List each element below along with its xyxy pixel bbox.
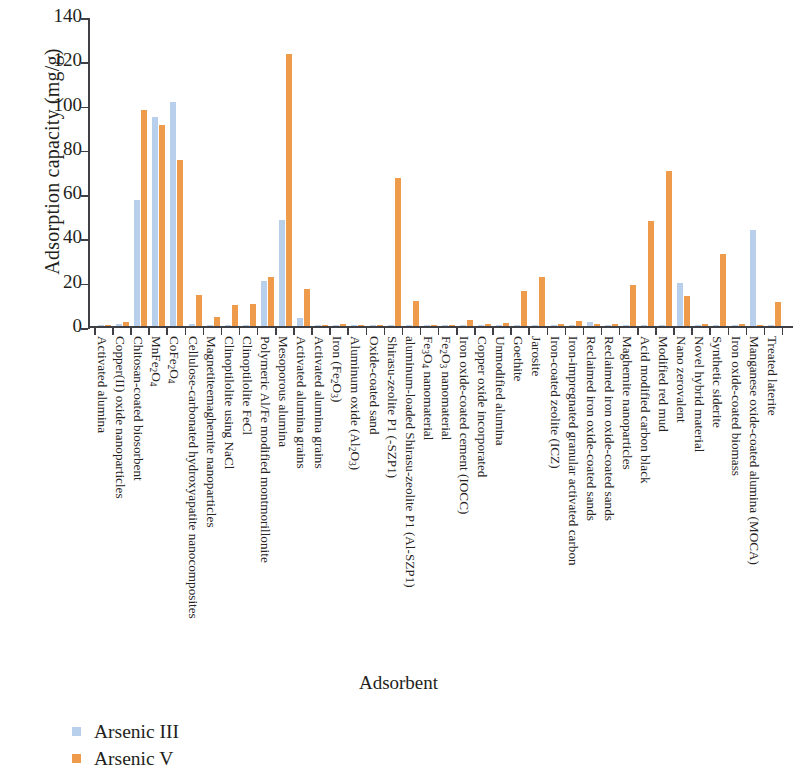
bar-arsenic-v[interactable] xyxy=(539,277,545,326)
bar-arsenic-iii[interactable] xyxy=(207,325,213,326)
bar-arsenic-v[interactable] xyxy=(775,302,781,326)
bar-arsenic-v[interactable] xyxy=(304,289,310,326)
x-tick-mark xyxy=(384,328,386,335)
legend-item[interactable]: Arsenic V xyxy=(72,745,179,772)
bar-arsenic-v[interactable] xyxy=(739,324,745,326)
bar-arsenic-v[interactable] xyxy=(503,323,509,326)
bar-arsenic-iii[interactable] xyxy=(460,325,466,326)
bar-arsenic-iii[interactable] xyxy=(695,325,701,326)
bar-arsenic-iii[interactable] xyxy=(750,230,756,326)
bar-arsenic-iii[interactable] xyxy=(768,325,774,326)
bar-arsenic-iii[interactable] xyxy=(98,325,104,326)
bar-arsenic-iii[interactable] xyxy=(388,325,394,326)
bar-arsenic-iii[interactable] xyxy=(315,325,321,326)
x-tick-label: Acid modified carbon black xyxy=(639,336,652,484)
bar-arsenic-iii[interactable] xyxy=(478,325,484,326)
bar-arsenic-v[interactable] xyxy=(340,324,346,326)
bar-arsenic-v[interactable] xyxy=(395,178,401,326)
bar-arsenic-v[interactable] xyxy=(431,325,437,326)
x-tick-label: Polymeric Al/Fe modified montmorillonite xyxy=(259,336,272,563)
x-tick-label: Iron oxide-coated cement (IOCC) xyxy=(458,336,471,514)
x-tick-label: Clinoptilolite FeCl xyxy=(241,336,254,435)
bar-arsenic-iii[interactable] xyxy=(351,325,357,326)
y-tick-label: 140 xyxy=(54,5,83,27)
bar-arsenic-iii[interactable] xyxy=(442,325,448,326)
y-tick-mark xyxy=(81,239,88,241)
bar-arsenic-v[interactable] xyxy=(286,54,292,326)
x-tick-label: Aluminum oxide (Al2O3) xyxy=(347,336,363,470)
legend-item[interactable]: Arsenic III xyxy=(72,718,179,745)
bar-arsenic-v[interactable] xyxy=(485,324,491,326)
bar-arsenic-v[interactable] xyxy=(358,325,364,326)
bar-arsenic-iii[interactable] xyxy=(297,318,303,326)
bar-arsenic-v[interactable] xyxy=(648,221,654,326)
x-tick-mark xyxy=(492,328,494,335)
bar-arsenic-v[interactable] xyxy=(196,295,202,326)
bar-arsenic-iii[interactable] xyxy=(659,325,665,326)
y-tick-mark xyxy=(81,195,88,197)
legend-swatch-icon xyxy=(72,727,81,736)
bar-arsenic-iii[interactable] xyxy=(713,325,719,326)
bar-arsenic-v[interactable] xyxy=(177,160,183,326)
x-tick-mark xyxy=(166,328,168,335)
bar-arsenic-iii[interactable] xyxy=(243,325,249,326)
x-tick-mark xyxy=(275,328,277,335)
x-tick-mark xyxy=(347,328,349,335)
bar-arsenic-iii[interactable] xyxy=(225,325,231,326)
x-tick-mark xyxy=(438,328,440,335)
bar-arsenic-v[interactable] xyxy=(214,317,220,326)
bar-arsenic-iii[interactable] xyxy=(587,322,593,326)
x-tick-mark xyxy=(728,328,730,335)
bar-arsenic-iii[interactable] xyxy=(424,325,430,326)
bar-arsenic-iii[interactable] xyxy=(623,325,629,326)
bar-arsenic-iii[interactable] xyxy=(370,325,376,326)
bar-arsenic-iii[interactable] xyxy=(532,325,538,326)
bar-arsenic-iii[interactable] xyxy=(152,117,158,326)
legend-swatch-icon xyxy=(72,754,81,763)
bar-arsenic-v[interactable] xyxy=(467,320,473,326)
bar-arsenic-v[interactable] xyxy=(377,325,383,326)
bar-arsenic-iii[interactable] xyxy=(605,325,611,326)
bar-arsenic-iii[interactable] xyxy=(279,220,285,326)
x-tick-mark xyxy=(420,328,422,335)
bar-arsenic-iii[interactable] xyxy=(677,283,683,326)
bar-arsenic-iii[interactable] xyxy=(641,325,647,326)
bar-arsenic-v[interactable] xyxy=(413,301,419,326)
bar-arsenic-iii[interactable] xyxy=(170,102,176,326)
x-tick-label: CoFe2O4 xyxy=(166,336,182,384)
bar-arsenic-iii[interactable] xyxy=(333,325,339,326)
bar-arsenic-v[interactable] xyxy=(757,325,763,326)
bar-arsenic-iii[interactable] xyxy=(569,325,575,326)
bar-arsenic-iii[interactable] xyxy=(514,325,520,326)
bar-arsenic-v[interactable] xyxy=(612,324,618,326)
bar-arsenic-v[interactable] xyxy=(521,291,527,326)
bar-arsenic-iii[interactable] xyxy=(116,324,122,326)
bar-arsenic-iii[interactable] xyxy=(261,281,267,326)
bar-arsenic-v[interactable] xyxy=(250,304,256,326)
bar-arsenic-v[interactable] xyxy=(720,254,726,326)
bar-arsenic-v[interactable] xyxy=(232,305,238,326)
bar-arsenic-iii[interactable] xyxy=(406,325,412,326)
bar-arsenic-iii[interactable] xyxy=(496,325,502,326)
bar-arsenic-v[interactable] xyxy=(702,324,708,326)
bar-arsenic-v[interactable] xyxy=(630,285,636,326)
bar-arsenic-v[interactable] xyxy=(159,125,165,327)
bar-arsenic-iii[interactable] xyxy=(189,324,195,326)
bar-arsenic-v[interactable] xyxy=(576,321,582,326)
bar-arsenic-iii[interactable] xyxy=(134,200,140,326)
bar-arsenic-v[interactable] xyxy=(594,324,600,326)
bar-arsenic-v[interactable] xyxy=(684,296,690,326)
bar-arsenic-v[interactable] xyxy=(105,325,111,326)
bar-arsenic-v[interactable] xyxy=(268,277,274,326)
x-tick-mark xyxy=(402,328,404,335)
bar-arsenic-v[interactable] xyxy=(449,325,455,326)
bar-arsenic-v[interactable] xyxy=(666,171,672,326)
x-tick-mark xyxy=(528,328,530,335)
bar-arsenic-v[interactable] xyxy=(141,110,147,326)
bar-arsenic-v[interactable] xyxy=(123,322,129,326)
bar-arsenic-v[interactable] xyxy=(322,325,328,326)
bar-arsenic-v[interactable] xyxy=(558,324,564,326)
bar-arsenic-iii[interactable] xyxy=(732,325,738,326)
bar-arsenic-iii[interactable] xyxy=(551,325,557,326)
x-tick-mark xyxy=(565,328,567,335)
